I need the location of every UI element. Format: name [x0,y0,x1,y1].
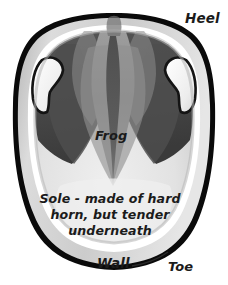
label-toe: Toe [168,259,193,274]
label-sole: Sole - made of hard horn, but tender und… [31,191,189,239]
label-sole-line-1: Sole - made of hard [31,191,189,207]
label-sole-line-2: horn, but tender [31,207,189,223]
label-heel: Heel [185,11,220,27]
label-frog: Frog [95,128,128,143]
heel-cleft-notch [107,16,122,36]
hoof-diagram: Heel Frog Sole - made of hard horn, but … [0,0,228,285]
label-sole-line-3: underneath [31,223,189,239]
label-wall: Wall [97,256,130,272]
